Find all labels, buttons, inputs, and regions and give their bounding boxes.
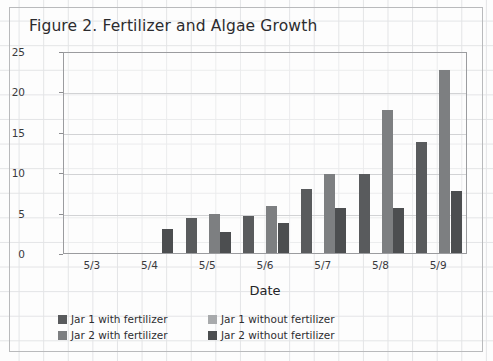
legend-swatch (58, 331, 67, 340)
legend-swatch (208, 331, 217, 340)
chart-legend: Jar 1 with fertilizerJar 1 without ferti… (58, 311, 335, 343)
gridline (64, 93, 466, 94)
plot-area (63, 52, 467, 254)
legend-label: Jar 1 without fertilizer (221, 313, 335, 325)
bar (439, 70, 450, 253)
x-tick-label: 5/8 (351, 259, 409, 271)
bar (382, 110, 393, 253)
bar (186, 218, 197, 253)
bar (324, 174, 335, 253)
x-tick-label: 5/4 (121, 259, 179, 271)
bar (301, 189, 312, 253)
legend-label: Jar 2 without fertilizer (221, 329, 335, 341)
figure-page: Figure 2. Fertilizer and Algae Growth Di… (0, 0, 493, 361)
bar (162, 229, 173, 253)
legend-swatch (58, 315, 67, 324)
x-tick-label: 5/3 (63, 259, 121, 271)
bar (220, 232, 231, 253)
bar (393, 208, 404, 253)
gridline (64, 174, 466, 175)
y-tick-label: 5 (0, 208, 25, 220)
bar (278, 223, 289, 253)
page-title: Figure 2. Fertilizer and Algae Growth (29, 17, 317, 35)
bar (451, 191, 462, 253)
gridline (64, 215, 466, 216)
bar (359, 174, 370, 253)
y-tick-label: 15 (0, 127, 25, 139)
x-tick-label: 5/9 (409, 259, 467, 271)
gridline (64, 134, 466, 135)
legend-item: Jar 1 without fertilizer (208, 311, 335, 327)
legend-label: Jar 1 with fertilizer (71, 313, 167, 325)
bar (243, 216, 254, 253)
legend-item: Jar 1 with fertilizer (58, 311, 200, 327)
y-tick-label: 10 (0, 167, 25, 179)
legend-item: Jar 2 with fertilizer (58, 327, 200, 343)
legend-label: Jar 2 with fertilizer (71, 329, 167, 341)
x-axis-title: Date (63, 283, 467, 298)
y-tick-label: 25 (0, 46, 25, 58)
bar (209, 214, 220, 253)
y-tick-label: 20 (0, 86, 25, 98)
y-tick-mark (59, 254, 63, 255)
bar (416, 142, 427, 253)
x-tick-label: 5/6 (236, 259, 294, 271)
x-tick-label: 5/7 (294, 259, 352, 271)
legend-item: Jar 2 without fertilizer (208, 327, 335, 343)
bar (335, 208, 346, 253)
legend-swatch (208, 315, 217, 324)
y-tick-label: 0 (0, 248, 25, 260)
x-tick-label: 5/5 (178, 259, 236, 271)
bar (266, 206, 277, 253)
